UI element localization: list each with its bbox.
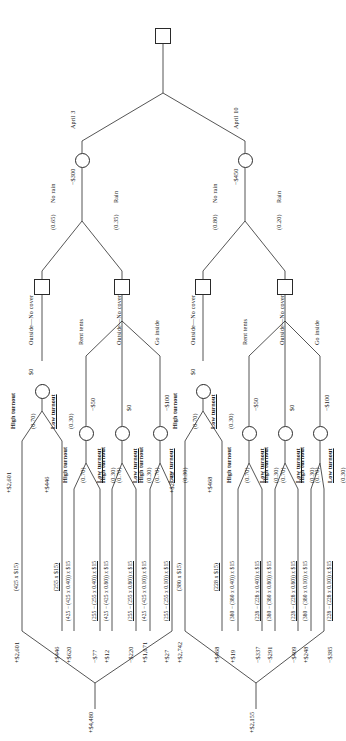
- a10-rain-opt1-cost: −$50: [253, 398, 259, 411]
- a10-rain-opt3-high-prob: (0.70): [314, 467, 320, 483]
- april3-rain-prob: (0.35): [113, 214, 119, 230]
- a3-rain-opt3-high-value: +$1,071: [142, 642, 148, 663]
- a3-rain-opt3-high-label: High turnout: [138, 447, 144, 483]
- a10-rain-opt2-label: Outside—No cover: [279, 295, 285, 345]
- a10-rain-opt2-low-expr: (228 − (228 x 0.80)) x $15: [291, 561, 296, 621]
- a3-rain-opt3-low-value: +$27: [164, 650, 170, 663]
- a10-norain-low-value: +$468: [214, 647, 220, 663]
- root-branch-april3-cost: −$300: [70, 169, 76, 185]
- a3-norain-high-turnout-label: High turnout: [10, 393, 16, 429]
- a10-rain-opt2-high-value: −$291: [267, 647, 273, 663]
- april10-rain-label: Rain: [276, 191, 282, 203]
- april3-root-ev: +$4,480: [88, 712, 94, 733]
- april3-rain-label: Rain: [113, 191, 119, 203]
- a3-norain-option-label: Outside—No cover: [28, 295, 34, 345]
- april10-no-rain-prob: (0.80): [212, 214, 218, 230]
- a10-rain-opt1-low-value: −$337: [255, 647, 261, 663]
- chance-node-turnout-a10-tents[interactable]: [242, 426, 257, 441]
- april3-no-rain-label: No rain: [50, 184, 56, 203]
- a10-rain-opt2-cost: $0: [289, 405, 295, 411]
- root-branch-april10-cost: −$450: [233, 169, 239, 185]
- a3-rain-opt1-high-expr: (425 − (425 x 0.40)) x $15: [66, 561, 71, 621]
- a3-norain-low-turnout-prob: (0.30): [68, 413, 74, 429]
- a3-norain-low-turnout-label: Low turnout: [50, 394, 56, 429]
- a10-rain-opt2-low-value: −$409: [291, 647, 297, 663]
- a3-rain-opt2-cost: $0: [126, 405, 132, 411]
- a3-rain-tents-ev: +$446: [44, 477, 50, 493]
- a10-rain-opt1-high-prob: (0.70): [244, 467, 250, 483]
- chance-node-turnout-a3-norain[interactable]: [35, 384, 50, 399]
- chance-node-turnout-a3-nocover[interactable]: [115, 426, 130, 441]
- a3-rain-opt1-label: Rent tents: [78, 319, 84, 345]
- a3-rain-opt1-cost: −$50: [90, 398, 96, 411]
- chance-node-april10-weather[interactable]: [238, 153, 253, 168]
- root-decision-node[interactable]: [155, 28, 171, 44]
- a3-norain-ev: +$2,601: [6, 472, 12, 493]
- a3-rain-opt2-low-expr: (255 − (255 x 0.80)) x $15: [128, 561, 133, 621]
- a10-rain-opt1-label: Rent tents: [242, 319, 248, 345]
- april10-rain-prob: (0.20): [276, 214, 282, 230]
- a3-norain-low-value: +$446: [54, 647, 60, 663]
- a3-rain-opt2-high-value: +$12: [104, 650, 110, 663]
- a10-rain-tents-ev: +$468: [207, 477, 213, 493]
- april10-no-rain-label: No rain: [212, 184, 218, 203]
- a3-rain-opt2-label: Outside—No cover: [116, 295, 122, 345]
- a3-rain-opt3-low-prob: (0.30): [182, 467, 188, 483]
- chance-node-turnout-a10-nocover[interactable]: [278, 426, 293, 441]
- a10-rain-opt3-low-expr: (228 − (228 x 0.10)) x $15: [327, 561, 332, 621]
- a10-rain-opt2-high-label: High turnout: [263, 447, 269, 483]
- a3-rain-opt3-cost: −$100: [164, 395, 170, 411]
- decision-node-april3-rain[interactable]: [114, 279, 130, 295]
- a3-rain-opt3-high-prob: (0.70): [154, 467, 160, 483]
- chance-node-turnout-a10-inside[interactable]: [313, 426, 328, 441]
- a10-norain-ev: +$2,742: [169, 472, 175, 493]
- a3-rain-opt1-high-label: High turnout: [62, 447, 68, 483]
- a10-rain-opt3-low-prob: (0.30): [340, 467, 346, 483]
- a10-rain-opt3-cost: −$100: [324, 395, 330, 411]
- a3-rain-opt3-low-expr: (255 − (255 x 0.10)) x $15: [164, 561, 169, 621]
- a10-rain-opt1-high-value: +$19: [230, 650, 236, 663]
- a3-rain-opt3-high-expr: (425 − (425 x 0.10)) x $15: [142, 561, 147, 621]
- a3-norain-high-expr: (425 x $15): [14, 563, 20, 591]
- root-branch-april10-label: April 10: [233, 107, 239, 129]
- a10-rain-opt3-high-value: +$248: [303, 647, 309, 663]
- a10-norain-option-label: Outside—No cover: [190, 295, 196, 345]
- a10-rain-opt1-high-label: High turnout: [226, 447, 232, 483]
- chance-node-turnout-a3-inside[interactable]: [153, 426, 168, 441]
- a3-norain-low-expr: (255 x $15): [54, 563, 60, 591]
- a10-norain-high-expr: (380 x $15): [177, 563, 183, 591]
- a10-rain-opt3-high-label: High turnout: [299, 447, 305, 483]
- a3-rain-opt2-high-prob: (0.70): [116, 467, 122, 483]
- a10-rain-opt2-high-prob: (0.70): [280, 467, 286, 483]
- root-branch-april3-label: April 3: [70, 111, 76, 129]
- a10-rain-opt1-high-expr: (380 − (380 x 0.40)) x $15: [230, 561, 235, 621]
- a3-rain-opt1-low-value: −$77: [92, 650, 98, 663]
- a3-rain-opt3-label: Go inside: [154, 320, 160, 345]
- a10-rain-opt3-label: Go inside: [314, 320, 320, 345]
- a10-norain-low-turnout-prob: (0.30): [228, 413, 234, 429]
- chance-node-turnout-a3-tents[interactable]: [79, 426, 94, 441]
- a3-rain-opt1-high-prob: (0.70): [80, 467, 86, 483]
- april10-root-ev: +$2,155: [249, 712, 255, 733]
- a3-rain-opt1-high-value: +$620: [66, 647, 72, 663]
- decision-node-april3-norain[interactable]: [34, 279, 50, 295]
- decision-node-april10-norain[interactable]: [195, 279, 211, 295]
- a10-rain-opt1-low-expr: (228 − (228 x 0.40)) x $15: [255, 561, 260, 621]
- a3-norain-high-value: +$2,601: [14, 642, 20, 663]
- decision-node-april10-rain[interactable]: [277, 279, 293, 295]
- a3-rain-opt1-low-expr: (255 − (255 x 0.40)) x $15: [92, 561, 97, 621]
- a10-norain-high-value: +$2,742: [177, 642, 183, 663]
- a3-rain-opt2-high-expr: (425 − (425 x 0.80)) x $15: [104, 561, 109, 621]
- a3-rain-opt2-low-value: −$220: [128, 647, 134, 663]
- a10-norain-option-cost: $0: [190, 369, 196, 375]
- a10-rain-opt3-high-expr: (380 − (380 x 0.10)) x $15: [303, 561, 308, 621]
- a10-norain-high-turnout-label: High turnout: [172, 393, 178, 429]
- a3-norain-option-cost: $0: [28, 369, 34, 375]
- a10-rain-opt2-high-expr: (380 − (380 x 0.80)) x $15: [267, 561, 272, 621]
- a10-rain-opt3-low-label: Low turnout: [327, 448, 333, 483]
- a3-rain-opt2-high-label: High turnout: [100, 447, 106, 483]
- a10-norain-high-turnout-prob: (0.70): [192, 413, 198, 429]
- chance-node-april3-weather[interactable]: [75, 153, 90, 168]
